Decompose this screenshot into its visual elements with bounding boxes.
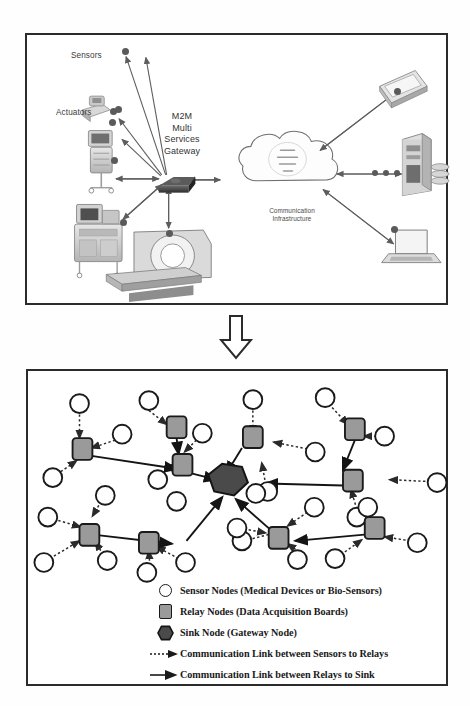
relay-node [343, 470, 363, 492]
legend: Sensor Nodes (Medical Devices or Bio-Sen… [150, 580, 440, 685]
actuators-label: Actuators [56, 108, 92, 119]
sensor-node [306, 443, 325, 462]
sink-node [208, 464, 248, 496]
sensor-node [43, 468, 62, 487]
sensor-node [193, 424, 212, 443]
relay-node [243, 426, 263, 448]
legend-item-sensor-relay-link: Communication Link between Sensors to Re… [150, 643, 440, 664]
sensor-node [98, 551, 117, 570]
legend-label: Relay Nodes (Data Acquisition Boards) [180, 606, 348, 617]
communication-infrastructure-label: Communication Infrastructure [252, 207, 332, 223]
device-dot-infusion-pump [110, 108, 117, 115]
cloud-icon [239, 131, 338, 180]
legend-item-relay-nodes: Relay Nodes (Data Acquisition Boards) [150, 601, 440, 622]
sensor-node [228, 519, 247, 538]
sensor-node [316, 388, 335, 407]
device-dot-smartphone [394, 88, 401, 95]
m2m-gateway-label: M2M Multi Services Gateway [147, 111, 217, 157]
sensor-node [305, 498, 324, 517]
sensor-node [137, 563, 156, 582]
legend-item-sink-node: Sink Node (Gateway Node) [150, 622, 440, 643]
relay-node [80, 524, 100, 546]
relay-node [173, 454, 193, 476]
legend-item-sensor-nodes: Sensor Nodes (Medical Devices or Bio-Sen… [150, 580, 440, 601]
relay-node [269, 527, 289, 549]
sensor-node [288, 550, 307, 569]
relay-node [365, 517, 385, 539]
anesthesia-machine-device [75, 204, 123, 277]
device-dot-anesthesia [120, 219, 127, 226]
device-dot-monitor [111, 157, 118, 164]
sensor-node [358, 498, 377, 517]
relay-node [345, 418, 365, 440]
legend-label: Communication Link between Sensors to Re… [180, 648, 388, 659]
figure-canvas: Sensors Actuators M2M Multi Services Gat… [0, 0, 470, 706]
relay-node [167, 416, 187, 438]
device-dot-server-1 [372, 170, 378, 176]
sensor-node [408, 533, 427, 552]
device-dot-server-2 [383, 170, 389, 176]
sensor-node [375, 427, 394, 446]
device-dot-ct [166, 230, 173, 237]
sensor-node [113, 425, 132, 444]
sensor-node [167, 492, 186, 511]
sensor-node [38, 508, 57, 527]
relay-node [139, 532, 159, 554]
sensor-node [148, 470, 167, 489]
legend-item-relay-sink-link: Communication Link between Relays to Sin… [150, 664, 440, 685]
top-panel-m2m-architecture: Sensors Actuators M2M Multi Services Gat… [25, 33, 448, 305]
legend-label: Sink Node (Gateway Node) [180, 627, 297, 638]
relay-node [73, 438, 93, 460]
sensor-node [34, 553, 53, 572]
device-dot-laptop [391, 226, 398, 233]
device-dot-server-3 [394, 170, 400, 176]
laptop-device [382, 230, 441, 263]
legend-label: Sensor Nodes (Medical Devices or Bio-Sen… [180, 585, 382, 596]
sensor-node-circle-icon [150, 584, 180, 597]
sensor-node [428, 473, 447, 492]
legend-label: Communication Link between Relays to Sin… [180, 669, 375, 680]
sensor-node [96, 486, 115, 505]
device-dot-pump [109, 119, 116, 126]
smartphone-device [380, 70, 428, 107]
m2m-gateway-device [159, 177, 196, 193]
sensors-label: Sensors [71, 51, 102, 62]
solid-arrow-icon [150, 671, 180, 679]
sensor-node [243, 390, 262, 409]
sensor-node [176, 553, 195, 572]
sensor-node [70, 394, 89, 413]
sink-node-hexagon-icon [150, 625, 180, 641]
top-panel-graphics [27, 35, 446, 303]
downward-flow-arrow [218, 314, 254, 360]
vital-monitor-cart-device [88, 131, 113, 193]
server-tower-device [402, 134, 449, 196]
disk-stack-icon [431, 164, 449, 184]
relay-node-square-icon [150, 604, 180, 619]
sensor-node [139, 391, 158, 410]
sensor-node [246, 484, 265, 503]
sensor-node [326, 549, 345, 568]
sensor-dot-marker [122, 48, 129, 55]
dotted-arrow-icon [150, 650, 180, 658]
